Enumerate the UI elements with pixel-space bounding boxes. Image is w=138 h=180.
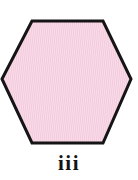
- hexagon-shape: [0, 0, 138, 150]
- shape-area: [0, 0, 138, 150]
- hexagon-outline: [2, 21, 131, 143]
- figure-panel: iii: [0, 0, 138, 180]
- figure-caption-label: iii: [0, 150, 138, 180]
